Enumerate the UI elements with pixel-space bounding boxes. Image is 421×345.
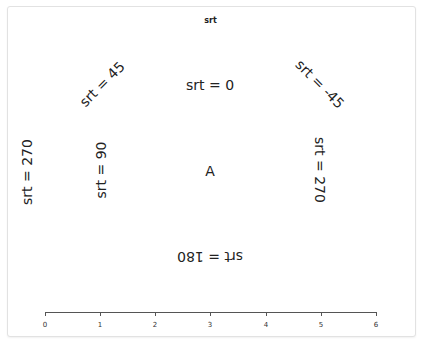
label-srt-90: srt = 90: [94, 142, 108, 199]
x-tick-label-3: 3: [200, 321, 220, 329]
x-tick-label-5: 5: [311, 321, 331, 329]
x-tick-label-6: 6: [366, 321, 386, 329]
x-tick-label-4: 4: [256, 321, 276, 329]
x-tick-1: [100, 312, 101, 316]
x-tick-5: [321, 312, 322, 316]
x-tick-2: [155, 312, 156, 316]
label-srt-0: srt = 0: [186, 78, 234, 92]
x-tick-label-1: 1: [90, 321, 110, 329]
label-srt-270-left: srt = 270: [20, 139, 34, 205]
x-tick-4: [266, 312, 267, 316]
x-tick-3: [210, 312, 211, 316]
x-tick-6: [376, 312, 377, 316]
chart-title: srt: [0, 16, 421, 25]
label-srt-270-right: srt = 270: [313, 137, 327, 203]
label-srt-180: srt = 180: [177, 250, 243, 264]
x-tick-label-2: 2: [145, 321, 165, 329]
x-axis-line: [45, 312, 377, 313]
x-tick-label-0: 0: [35, 321, 55, 329]
label-center-a: A: [205, 164, 215, 178]
x-tick-0: [45, 312, 46, 316]
